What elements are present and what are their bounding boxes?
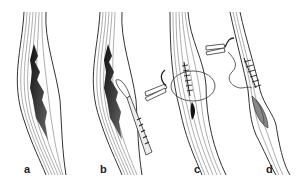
panel-c-tendon xyxy=(145,12,226,175)
needle-holder-icon xyxy=(145,70,167,101)
panel-a-tendon xyxy=(17,12,66,175)
panel-label-a: a xyxy=(24,163,30,175)
tendon-repair-figure xyxy=(0,0,304,187)
panel-d-tendon xyxy=(206,12,290,175)
scalpel-icon xyxy=(116,80,152,155)
panel-label-c: c xyxy=(194,163,200,175)
panel-b-tendon xyxy=(93,12,152,175)
tear xyxy=(30,44,48,140)
panel-label-d: d xyxy=(266,163,273,175)
panel-label-b: b xyxy=(100,163,107,175)
